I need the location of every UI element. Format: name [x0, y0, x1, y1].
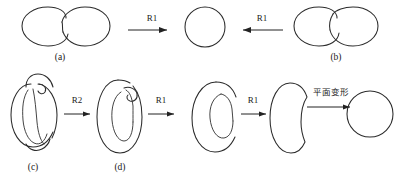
diagram-c: (c): [11, 74, 57, 173]
caption-a: (a): [55, 52, 66, 63]
diagram-c-outer-oval: [11, 84, 53, 147]
diagram-a-crossing-strand: [62, 22, 63, 32]
diagram-a-left-circle: [22, 7, 68, 46]
diagram-b-right-circle: [330, 7, 378, 46]
diagram-e-outer-c: [192, 82, 235, 152]
figure-canvas: (a) R1 R1 (b): [0, 0, 397, 177]
arrow-e-to-f-head: [259, 112, 266, 117]
diagram-center-circle: [185, 7, 225, 47]
arrow-f-to-g: 平面变形: [307, 87, 350, 110]
diagram-b-left-circle: [294, 7, 339, 46]
arrow-e-to-f: R1: [241, 95, 266, 117]
diagram-e: [192, 82, 236, 152]
caption-d: (d): [114, 162, 125, 173]
center-unknot-circle: [185, 7, 225, 47]
diagram-d-inner-loop-right: [126, 90, 133, 122]
arrow-d-to-e-head: [167, 112, 174, 117]
diagram-a: (a): [22, 7, 110, 63]
caption-b: (b): [330, 52, 341, 63]
arrow-c-to-d-label: R2: [72, 95, 83, 105]
diagram-c-outer-oval-right: [38, 84, 57, 138]
arrow-f-to-g-label: 平面变形: [313, 87, 349, 97]
diagram-a-right-circle: [62, 7, 110, 46]
arrow-e-to-f-label: R1: [248, 95, 259, 105]
diagram-g: [347, 91, 393, 137]
diagram-c-hook-curl: [38, 84, 46, 94]
diagram-f: [270, 83, 307, 153]
arrow-c-to-d: R2: [64, 95, 90, 117]
diagram-d: (d): [97, 80, 142, 173]
diagram-b: (b): [294, 7, 378, 63]
arrow-c-to-d-head: [83, 112, 90, 117]
diagram-e-inner-curl-top: [221, 94, 233, 121]
arrow-right-label: R1: [257, 13, 268, 23]
diagram-d-inner-loop: [112, 92, 133, 141]
arrow-d-to-e-label: R1: [156, 95, 167, 105]
diagram-f-thick-c: [270, 83, 307, 153]
diagram-c-inner-loop-right: [33, 89, 44, 144]
diagram-c-bottom-arc: [26, 139, 50, 150]
arrow-left-to-center: R1: [128, 13, 167, 33]
diagram-b-crossing-strand: [330, 14, 333, 30]
arrow-left-head: [159, 27, 167, 33]
diagram-c-top-arc: [26, 74, 53, 87]
arrow-left-label: R1: [147, 13, 158, 23]
arrow-d-to-e: R1: [148, 95, 174, 117]
final-unknot-circle: [347, 91, 393, 137]
diagram-d-outer-oval-gap: [118, 80, 130, 83]
arrow-right-to-center: R1: [243, 13, 283, 33]
arrow-right-head: [243, 27, 251, 33]
reidemeister-move-figure: (a) R1 R1 (b): [0, 0, 397, 177]
caption-c: (c): [28, 162, 39, 173]
